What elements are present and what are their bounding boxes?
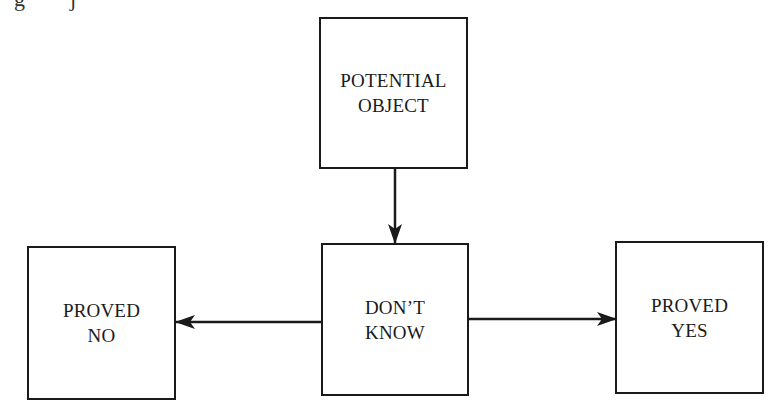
node-label-line: PROVED (63, 298, 140, 323)
node-label-line: KNOW (365, 320, 425, 345)
node-label-line: DON’T (365, 295, 425, 320)
node-label-line: NO (63, 323, 140, 348)
node-dont-know: DON’T KNOW (321, 243, 469, 396)
node-label-line: POTENTIAL (340, 68, 446, 93)
node-potential-object: POTENTIAL OBJECT (319, 17, 468, 169)
node-proved-yes: PROVED YES (615, 241, 764, 394)
node-label-line: OBJECT (340, 93, 446, 118)
node-label-line: PROVED (651, 293, 728, 318)
node-proved-no: PROVED NO (27, 246, 176, 400)
node-label-line: YES (651, 318, 728, 343)
